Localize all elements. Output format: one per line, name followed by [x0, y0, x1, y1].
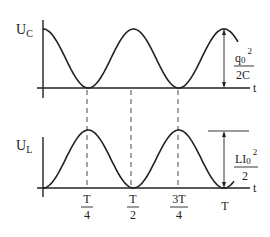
svg-text:2: 2 — [130, 208, 136, 222]
tick-t4: T 4 — [81, 192, 93, 222]
svg-text:4: 4 — [84, 208, 90, 222]
uc-label: UC — [16, 22, 33, 39]
ul-label: UL — [16, 138, 32, 155]
svg-text:2C: 2C — [236, 68, 250, 82]
lc-energy-diagram: UC t q02 2C UL t LI02 2 T — [0, 0, 270, 237]
arrow-up-icon — [222, 131, 226, 137]
svg-text:T: T — [129, 192, 137, 206]
svg-text:2: 2 — [242, 169, 248, 183]
svg-text:q02: q02 — [235, 46, 252, 65]
uc-curve — [43, 29, 238, 88]
svg-text:T: T — [221, 199, 229, 213]
svg-text:LI02: LI02 — [235, 147, 257, 166]
top-amplitude-label: q02 2C — [234, 46, 254, 82]
top-graph: UC t q02 2C — [16, 20, 257, 98]
tick-t: T — [221, 199, 229, 213]
bottom-amplitude-label: LI02 2 — [234, 147, 258, 183]
top-t-label: t — [253, 81, 257, 95]
bottom-graph: UL t LI02 2 T 4 T 2 3T 4 T — [16, 130, 258, 222]
arrow-down-icon — [222, 82, 226, 88]
bottom-t-label: t — [253, 181, 257, 195]
svg-text:T: T — [83, 192, 91, 206]
tick-3t4: 3T 4 — [170, 192, 188, 222]
svg-text:3T: 3T — [172, 192, 186, 206]
svg-text:4: 4 — [176, 208, 182, 222]
ul-curve — [43, 130, 234, 188]
tick-t2: T 2 — [127, 192, 139, 222]
